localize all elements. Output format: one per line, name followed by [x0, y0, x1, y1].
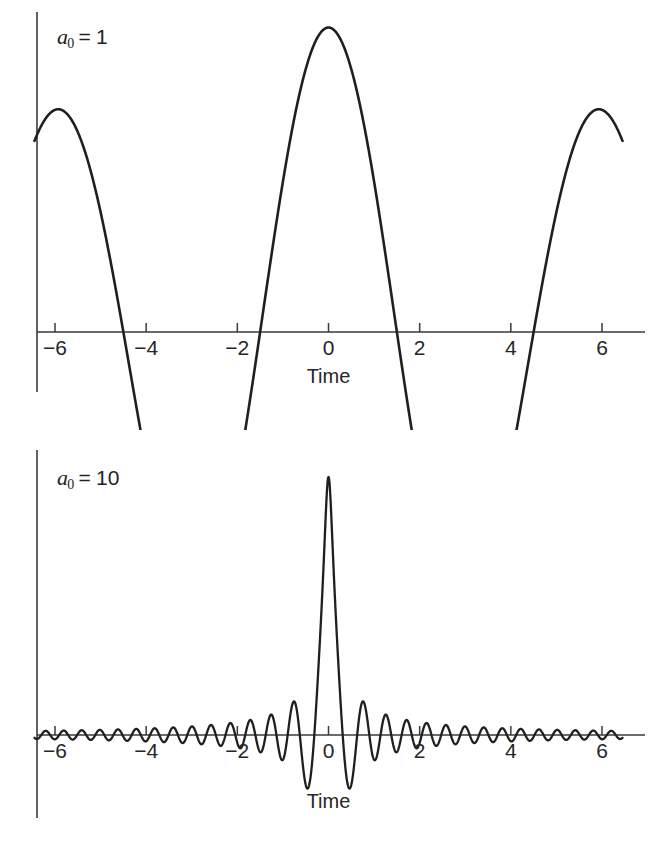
x-tick-label: 4 — [505, 739, 517, 763]
x-tick-label: 6 — [596, 739, 608, 763]
plot-canvas-bottom — [0, 440, 655, 845]
chart-panel-a0-10: a0=10 −6−4−20246 Time — [0, 440, 655, 845]
param-equals-top: = — [78, 25, 90, 48]
param-value-bottom: 10 — [96, 466, 120, 489]
chart-panel-a0-1: a0=1 −6−4−20246 Time — [0, 0, 655, 430]
x-tick-label: −4 — [134, 336, 158, 360]
chirp-figure: a0=1 −6−4−20246 Time a0=10 −6−4−20246 Ti… — [0, 0, 655, 845]
x-tick-label: −2 — [225, 336, 249, 360]
x-tick-label: −4 — [134, 739, 158, 763]
param-subscript-top: 0 — [67, 36, 74, 51]
param-subscript-bottom: 0 — [67, 477, 74, 492]
x-tick-label: 0 — [323, 739, 335, 763]
param-equals-bottom: = — [78, 466, 90, 489]
x-axis-title-bottom: Time — [307, 790, 351, 813]
x-tick-label: −6 — [43, 739, 67, 763]
x-axis-title-top: Time — [307, 365, 351, 388]
x-tick-label: 6 — [596, 336, 608, 360]
x-tick-label: −6 — [43, 336, 67, 360]
x-tick-label: 0 — [323, 336, 335, 360]
x-tick-label: 2 — [414, 739, 426, 763]
x-tick-label: 4 — [505, 336, 517, 360]
param-value-top: 1 — [96, 25, 108, 48]
x-tick-label: −2 — [225, 739, 249, 763]
parameter-annotation-top: a0=1 — [57, 24, 108, 52]
x-tick-label: 2 — [414, 336, 426, 360]
parameter-annotation-bottom: a0=10 — [57, 465, 120, 493]
